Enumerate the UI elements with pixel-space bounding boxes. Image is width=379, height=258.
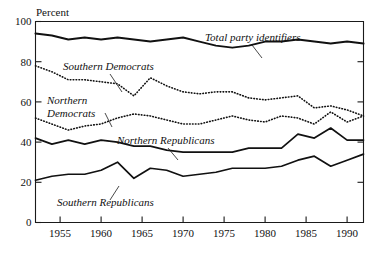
x-axis-tick-labels: 19551960196519701975198019851990 <box>49 227 359 239</box>
y-tick-label-40: 40 <box>21 136 33 148</box>
y-tick-label-20: 20 <box>21 176 33 188</box>
x-tick-label-1965: 1965 <box>131 227 154 239</box>
series-label-southern-democrats: Southern Democrats <box>63 60 154 72</box>
x-tick-label-1990: 1990 <box>336 227 359 239</box>
y-axis-title: Percent <box>36 6 69 18</box>
y-tick-label-60: 60 <box>21 96 33 108</box>
x-axis-ticks <box>60 217 347 223</box>
plot-frame <box>36 22 364 223</box>
series-line-southern-republicans <box>36 154 364 180</box>
series-label-northern: Northern <box>46 94 88 106</box>
x-tick-label-1975: 1975 <box>213 227 236 239</box>
series-label-southern-republicans: Southern Republicans <box>57 196 154 208</box>
y-tick-label-0: 0 <box>26 216 32 228</box>
series-label-northern-republicans: Northern Republicans <box>116 134 214 146</box>
series-line-total-party-identifiers <box>36 34 364 48</box>
series-label-democrats: Democrats <box>46 107 95 119</box>
y-tick-label-100: 100 <box>15 15 32 27</box>
x-tick-label-1980: 1980 <box>254 227 277 239</box>
leader-line-northern-republicans <box>168 148 178 160</box>
x-tick-label-1985: 1985 <box>295 227 318 239</box>
leader-line-total-party-identifiers <box>252 45 262 58</box>
y-tick-label-80: 80 <box>21 56 33 68</box>
y-axis-tick-labels: 020406080100 <box>15 15 32 228</box>
y-axis-ticks <box>36 22 364 223</box>
party-identification-line-chart: 020406080100 195519601965197019751980198… <box>0 0 379 258</box>
series-label-total-party-identifiers: Total party identifiers <box>205 31 301 43</box>
series-annotations: Total party identifiersSouthern Democrat… <box>46 31 301 208</box>
x-tick-label-1960: 1960 <box>90 227 113 239</box>
x-tick-label-1955: 1955 <box>49 227 72 239</box>
chart-figure: 020406080100 195519601965197019751980198… <box>0 0 379 258</box>
x-tick-label-1970: 1970 <box>172 227 195 239</box>
